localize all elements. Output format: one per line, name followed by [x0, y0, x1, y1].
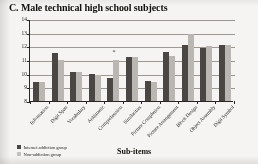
- y-axis-title: scores: [0, 39, 1, 53]
- bar-group: [67, 72, 86, 101]
- bar: [151, 82, 157, 101]
- chart-legend: Internet addiction groupNon-addiction gr…: [17, 144, 67, 158]
- legend-swatch: [17, 145, 21, 149]
- chart-title: C. Male technical high school subjects: [9, 2, 167, 13]
- x-axis-title: Sub-items: [117, 147, 151, 156]
- legend-item: Internet addiction group: [17, 144, 67, 150]
- bar: [169, 56, 175, 101]
- y-tick-mark: [27, 34, 30, 35]
- plot-area: *: [29, 20, 233, 102]
- significance-annotation: *: [112, 49, 115, 55]
- figure-panel: C. Male technical high school subjects s…: [0, 0, 258, 164]
- x-axis-tick-labels: InformationDigit SpanVocabularyArithmeti…: [29, 104, 239, 146]
- bar: [95, 75, 101, 101]
- y-tick-mark: [27, 61, 30, 62]
- bar: [39, 82, 45, 101]
- bar: [76, 72, 82, 101]
- bar: [132, 57, 138, 101]
- bar: [113, 60, 119, 101]
- bar-group: [141, 81, 160, 101]
- y-axis-tick-labels: 891011121314: [13, 20, 27, 102]
- y-tick-mark: [27, 75, 30, 76]
- bar-group: [49, 53, 68, 101]
- bar-group: [215, 45, 234, 101]
- legend-swatch: [17, 152, 21, 156]
- x-tick-label: Vocabulary: [66, 104, 86, 125]
- bar-group: [160, 52, 179, 101]
- bar-group: [86, 74, 105, 101]
- bar-group: [123, 57, 142, 101]
- legend-item: Non-addiction group: [17, 151, 67, 157]
- bar-group: [197, 46, 216, 101]
- bar-group: [104, 60, 123, 101]
- bar: [206, 46, 212, 101]
- bar: [225, 45, 231, 101]
- x-tick-label: Information: [28, 104, 49, 126]
- gridline: [30, 20, 235, 21]
- y-tick-mark: [27, 47, 30, 48]
- legend-label: Internet addiction group: [24, 145, 67, 150]
- bar: [58, 60, 64, 101]
- x-tick-label: Digit Span: [49, 104, 68, 124]
- gridline: [30, 34, 235, 35]
- bar-group: [30, 82, 49, 101]
- legend-label: Non-addiction group: [24, 152, 61, 157]
- bar-group: [178, 34, 197, 101]
- bar: [188, 34, 194, 101]
- y-tick-mark: [27, 20, 30, 21]
